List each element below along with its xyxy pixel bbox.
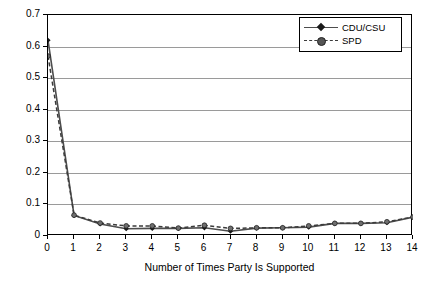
y-tick-label: 0.6 [6,41,40,51]
data-point [228,226,233,231]
data-point [280,225,285,230]
x-tick-mark [308,235,309,239]
x-tick-label: 6 [193,243,213,253]
x-tick-mark [125,235,126,239]
y-tick-mark [43,14,47,15]
x-tick-label: 4 [141,243,161,253]
x-tick-label: 13 [376,243,396,253]
x-tick-label: 10 [298,243,318,253]
y-tick-label: 0.5 [6,72,40,82]
chart-figure: Percentage of Sample 00.10.20.30.40.50.6… [0,0,429,281]
data-point [306,223,311,228]
x-tick-label: 5 [167,243,187,253]
x-tick-mark [360,235,361,239]
y-tick-label: 0 [6,230,40,240]
x-tick-label: 0 [37,243,57,253]
data-point [124,223,129,228]
y-tick-label: 0.1 [6,198,40,208]
x-tick-label: 2 [89,243,109,253]
x-tick-mark [47,235,48,239]
data-point [48,38,51,43]
x-tick-mark [412,235,413,239]
data-point [254,225,259,230]
x-tick-label: 3 [115,243,135,253]
legend-label-cdu-csu: CDU/CSU [338,22,385,33]
data-point [385,219,390,224]
x-tick-mark [73,235,74,239]
data-point [176,226,181,231]
legend-item-spd: SPD [304,34,397,47]
x-tick-mark [99,235,100,239]
x-tick-label: 1 [63,243,83,253]
data-point [48,54,50,59]
y-tick-label: 0.4 [6,104,40,114]
y-tick-label: 0.2 [6,167,40,177]
x-tick-label: 12 [350,243,370,253]
x-tick-label: 14 [402,243,422,253]
y-tick-mark [43,140,47,141]
legend-item-cdu-csu: CDU/CSU [304,21,397,34]
legend: CDU/CSU SPD [299,17,402,52]
x-tick-label: 9 [272,243,292,253]
y-tick-label: 0.7 [6,9,40,19]
series-line-cdu-csu [48,40,413,231]
y-tick-mark [43,172,47,173]
x-tick-mark [203,235,204,239]
y-tick-mark [43,109,47,110]
y-tick-mark [43,46,47,47]
x-axis-label: Number of Times Party Is Supported [47,261,412,273]
x-tick-mark [177,235,178,239]
legend-swatch-solid-diamond [304,22,338,33]
y-tick-mark [43,77,47,78]
x-tick-label: 11 [324,243,344,253]
series-line-spd [48,56,413,228]
x-tick-mark [334,235,335,239]
legend-swatch-dashed-circle [304,35,338,46]
data-point [332,221,337,226]
legend-label-spd: SPD [338,35,362,46]
x-tick-mark [256,235,257,239]
x-tick-mark [386,235,387,239]
data-point [411,215,413,220]
x-tick-label: 7 [220,243,240,253]
y-tick-label: 0.3 [6,135,40,145]
data-point [150,223,155,228]
x-tick-mark [230,235,231,239]
data-point [72,213,77,218]
x-tick-label: 8 [246,243,266,253]
data-point [358,221,363,226]
data-point [98,221,103,226]
x-tick-mark [151,235,152,239]
y-tick-mark [43,203,47,204]
data-point [202,223,207,228]
x-tick-mark [282,235,283,239]
